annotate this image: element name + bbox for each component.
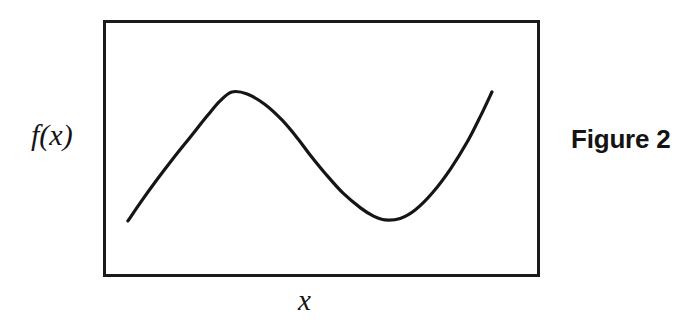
x-axis-label: x [298, 286, 311, 315]
plot-frame [103, 20, 540, 277]
figure-root: f(x) x Figure 2 [0, 0, 692, 336]
figure-caption: Figure 2 [571, 126, 671, 152]
y-axis-label: f(x) [31, 120, 73, 150]
